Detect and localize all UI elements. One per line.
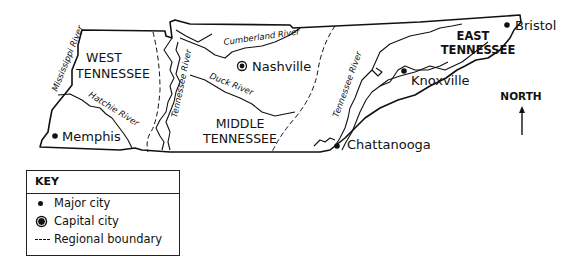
chattanooga-label: Chattanooga [347,137,431,152]
cumberland-river-bank [176,30,212,42]
north-label: NORTH [500,90,541,102]
key-item-major-city: Major city [27,194,179,212]
west-middle-boundary [147,32,160,152]
nashville-capital-dot [240,64,245,69]
east-tennessee-label-line1: EAST [457,29,490,43]
knoxville-label: Knoxville [411,73,470,88]
tennessee-river-east-bank [342,42,488,150]
cumberland-river-label: Cumberland River [223,26,301,47]
north-arrow-icon [519,106,525,113]
middle-east-boundary [272,26,335,152]
west-tennessee-label-line2: TENNESSEE [75,66,150,81]
memphis-label: Memphis [62,129,121,144]
mississippi-river-label: Mississippi River [50,24,86,93]
tennessee-river-west-label: Tennessee River [169,48,193,118]
knoxville-dot [401,68,407,74]
nashville-label: Nashville [252,59,311,74]
major-city-dot-icon [35,201,51,206]
middle-tennessee-label-line1: MIDDLE [216,116,265,131]
chattanooga-dot [334,143,340,149]
memphis-dot [52,133,58,139]
duck-river [190,75,295,116]
hatchie-river-label: Hatchie River [87,89,141,128]
key-item-regional-boundary: Regional boundary [27,230,179,248]
bristol-dot [504,22,510,28]
dashed-line-icon [35,239,51,240]
key-title: KEY [27,171,179,194]
bristol-label: Bristol [515,18,556,33]
river-south-chattanooga [314,138,335,146]
duck-river-label: Duck River [208,71,255,98]
capital-city-icon [35,217,51,226]
key-item-label: Major city [54,196,110,210]
west-tennessee-label-line1: WEST [86,50,122,65]
map-key: KEY Major city Capital city Regional bou… [26,170,180,256]
tennessee-river-east-label: Tennessee River [330,50,363,119]
east-tennessee-label-line2: TENNESSEE [441,43,516,57]
key-item-label: Regional boundary [54,232,162,246]
key-item-label: Capital city [54,214,119,228]
middle-tennessee-label-line2: TENNESSEE [202,131,277,146]
key-item-capital-city: Capital city [27,212,179,230]
tennessee-river-west [156,38,174,150]
